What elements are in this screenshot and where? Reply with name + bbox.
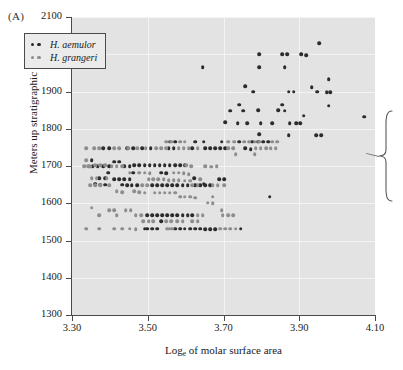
data-point-h-aemulor: [178, 163, 182, 167]
data-point-h-aemulor: [317, 41, 321, 45]
y-tick-label: 1500: [0, 234, 62, 245]
data-point-h-grangeri: [87, 164, 91, 168]
data-point-h-grangeri: [215, 164, 219, 168]
data-point-h-aemulor: [302, 114, 306, 118]
data-point-h-grangeri: [124, 208, 128, 212]
data-point-h-grangeri: [164, 146, 168, 150]
data-point-h-aemulor: [287, 134, 291, 138]
x-tick-mark: [148, 315, 149, 321]
figure-panel-a: (A) 130014001500160017001800190020002100…: [0, 0, 403, 370]
data-point-h-aemulor: [181, 213, 185, 217]
data-point-h-aemulor: [224, 120, 228, 124]
data-point-h-aemulor: [192, 176, 196, 180]
data-point-h-grangeri: [133, 190, 137, 194]
legend-label: H. aemulor: [50, 39, 96, 50]
legend-marker-icon: [31, 56, 50, 59]
data-point-h-grangeri: [159, 146, 163, 150]
data-point-h-aemulor: [245, 121, 249, 125]
data-point-h-grangeri: [140, 184, 144, 188]
data-point-h-grangeri: [196, 219, 200, 223]
data-point-h-aemulor: [283, 65, 287, 69]
legend-dot: [31, 56, 34, 59]
data-point-h-aemulor: [244, 84, 248, 88]
data-point-h-grangeri: [118, 146, 122, 150]
data-point-h-aemulor: [239, 227, 243, 231]
data-point-h-grangeri: [135, 146, 139, 150]
legend: H. aemulorH. grangeri: [24, 33, 106, 69]
data-point-h-grangeri: [183, 195, 187, 199]
data-point-h-aemulor: [319, 134, 323, 138]
data-point-h-aemulor: [175, 184, 179, 188]
data-point-h-aemulor: [160, 213, 164, 217]
data-point-h-aemulor: [118, 177, 122, 181]
data-point-h-grangeri: [107, 184, 111, 188]
data-point-h-grangeri: [107, 208, 111, 212]
data-point-h-aemulor: [292, 90, 296, 94]
data-point-h-grangeri: [231, 213, 235, 217]
data-point-h-aemulor: [201, 65, 205, 69]
data-point-h-aemulor: [238, 140, 242, 144]
data-point-h-grangeri: [264, 146, 268, 150]
y-tick-mark: [66, 203, 72, 204]
legend-item-h-aemulor: H. aemulor: [31, 38, 97, 51]
data-point-h-aemulor: [222, 177, 226, 181]
data-point-h-grangeri: [168, 191, 172, 195]
data-point-h-grangeri: [138, 171, 142, 175]
data-point-h-grangeri: [210, 165, 214, 169]
y-tick-mark: [66, 129, 72, 130]
x-tick-label: 3.90: [290, 322, 308, 333]
data-point-h-aemulor: [101, 146, 105, 150]
data-point-h-aemulor: [155, 227, 159, 231]
data-point-h-aemulor: [202, 140, 206, 144]
data-point-h-aemulor: [261, 140, 265, 144]
data-point-h-grangeri: [182, 172, 186, 176]
legend-dot: [37, 56, 40, 59]
data-point-h-grangeri: [216, 184, 220, 188]
data-point-h-grangeri: [232, 140, 236, 144]
data-point-h-aemulor: [155, 184, 159, 188]
data-point-h-grangeri: [191, 184, 195, 188]
data-point-h-grangeri: [187, 146, 191, 150]
data-point-h-aemulor: [135, 184, 139, 188]
data-point-h-grangeri: [219, 227, 223, 231]
y-tick-label: 1400: [0, 271, 62, 282]
data-point-h-grangeri: [134, 228, 138, 232]
data-point-h-grangeri: [163, 191, 167, 195]
data-point-h-aemulor: [163, 163, 167, 167]
data-point-h-aemulor: [314, 134, 318, 138]
data-point-h-grangeri: [226, 146, 230, 150]
data-point-h-grangeri: [177, 171, 181, 175]
data-point-h-grangeri: [178, 195, 182, 199]
data-point-h-aemulor: [236, 121, 240, 125]
data-point-h-grangeri: [164, 219, 168, 223]
data-point-h-grangeri: [88, 184, 92, 188]
data-point-h-aemulor: [204, 146, 208, 150]
data-point-h-grangeri: [201, 213, 205, 217]
data-point-h-aemulor: [125, 184, 129, 188]
data-point-h-grangeri: [182, 146, 186, 150]
data-point-h-grangeri: [177, 178, 181, 182]
legend-marker-icon: [31, 43, 50, 46]
data-point-h-aemulor: [130, 184, 134, 188]
data-point-h-grangeri: [274, 146, 278, 150]
data-point-h-aemulor: [288, 121, 292, 125]
data-point-h-grangeri: [193, 196, 197, 200]
data-point-h-aemulor: [270, 121, 274, 125]
data-point-h-grangeri: [143, 191, 147, 195]
data-point-h-aemulor: [128, 164, 132, 168]
data-point-h-grangeri: [187, 172, 191, 176]
data-point-h-grangeri: [185, 163, 189, 167]
data-point-h-aemulor: [258, 52, 262, 56]
data-point-h-grangeri: [94, 163, 98, 167]
data-point-h-aemulor: [204, 228, 208, 232]
data-point-h-grangeri: [144, 146, 148, 150]
y-tick-mark: [66, 92, 72, 93]
data-point-h-aemulor: [186, 213, 190, 217]
data-point-h-aemulor: [327, 77, 331, 81]
data-point-h-grangeri: [183, 179, 187, 183]
data-point-h-aemulor: [249, 147, 253, 151]
x-axis-title-base: Log: [165, 344, 183, 356]
data-point-h-grangeri: [270, 140, 274, 144]
data-point-h-aemulor: [229, 109, 233, 113]
x-tick-label: 3.70: [214, 322, 232, 333]
